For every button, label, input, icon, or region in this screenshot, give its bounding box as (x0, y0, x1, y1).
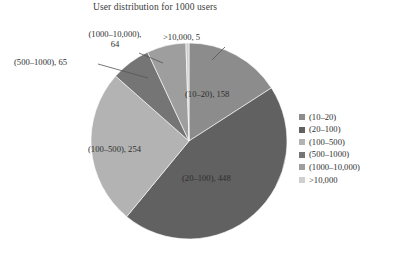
legend-item-label: (1000–10,000) (309, 163, 360, 172)
legend-item-label: (20–100) (309, 125, 341, 134)
slice-label-gt-10000: >10,000, 5 (163, 33, 200, 43)
legend-item-4[interactable]: (500–1000) (299, 150, 360, 160)
legend-swatch-icon (299, 114, 305, 120)
legend-swatch-icon (299, 177, 305, 183)
slice-label-100-500: (100–500), 254 (88, 145, 141, 155)
pie-slices-group (91, 43, 287, 239)
legend-item-3[interactable]: (100–500) (299, 137, 360, 147)
pie-plot-area (90, 42, 288, 240)
legend-item-label: (500–1000) (309, 150, 349, 159)
legend-item-2[interactable]: (20–100) (299, 125, 360, 135)
pie-svg (90, 42, 288, 240)
chart-title: User distribution for 1000 users (0, 2, 310, 12)
slice-label-500-1000: (500–1000), 65 (14, 58, 67, 68)
legend-item-label: (10–20) (309, 113, 336, 122)
legend-swatch-icon (299, 152, 305, 158)
legend-item-label: >10,000 (309, 176, 337, 185)
slice-label-1000-10000: (1000–10,000), 64 (84, 30, 146, 49)
slice-label-10-20: (10–20), 158 (185, 90, 229, 100)
chart-legend: (10–20)(20–100)(100–500)(500–1000)(1000–… (299, 112, 360, 185)
legend-swatch-icon (299, 164, 305, 170)
legend-swatch-icon (299, 139, 305, 145)
legend-item-label: (100–500) (309, 138, 345, 147)
legend-item-1[interactable]: (10–20) (299, 112, 360, 122)
legend-item-6[interactable]: >10,000 (299, 175, 360, 185)
legend-swatch-icon (299, 127, 305, 133)
pie-chart-figure: User distribution for 1000 users (10–20)… (0, 0, 400, 259)
legend-item-5[interactable]: (1000–10,000) (299, 162, 360, 172)
slice-label-20-100: (20–100), 448 (182, 174, 231, 184)
